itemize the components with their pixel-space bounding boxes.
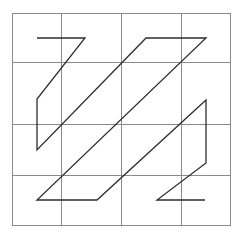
grid-diagram (0, 0, 240, 236)
